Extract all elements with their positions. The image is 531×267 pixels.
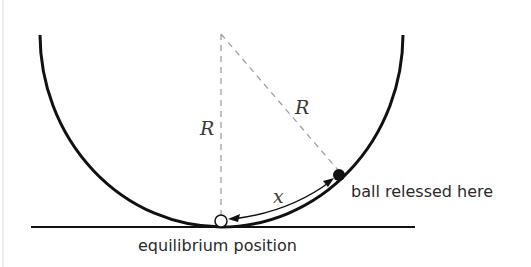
- equilibrium-label: equilibrium position: [138, 236, 297, 255]
- bowl-diagram: R R x ball relessed here equilibrium pos…: [0, 0, 531, 267]
- bowl-arc: [40, 35, 403, 227]
- ball-released-label: ball relessed here: [351, 182, 493, 201]
- radius-label-vertical: R: [199, 117, 214, 139]
- radius-label-diagonal: R: [294, 96, 309, 118]
- arc-length-label: x: [273, 185, 284, 207]
- arrowhead-left-icon: [228, 214, 240, 222]
- equilibrium-point-icon: [215, 215, 227, 227]
- diagonal-radius-line: [221, 34, 338, 170]
- ball-icon: [333, 169, 345, 181]
